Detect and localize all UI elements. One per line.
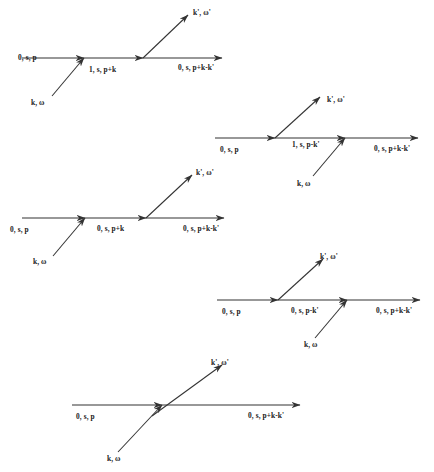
diagram-4-lines xyxy=(217,259,420,338)
diagram-3-outgoing-right-label: 0, s, p+k-k' xyxy=(183,225,219,232)
diagram-4-outgoing-photon-label: k', ω' xyxy=(320,253,338,260)
diagram-4-outgoing-right-label: 0, s, p+k-k' xyxy=(376,307,412,314)
diagram-3-incoming-photon-label: k, ω xyxy=(33,258,47,265)
diagram-1-lines xyxy=(22,15,222,96)
diagram-1-incoming-photon-label: k, ω xyxy=(31,99,45,106)
diagram-1-outgoing-photon-label: k', ω' xyxy=(193,9,211,16)
diagram-2-outgoing-right-label: 0, s, p+k-k' xyxy=(374,145,410,152)
diagram-5-outgoing-photon-label: k', ω' xyxy=(211,359,229,366)
diagram-1-incoming-left-label: 0, s, p xyxy=(18,54,37,61)
diagram-1-middle-label: 1, s, p+k xyxy=(89,66,116,73)
diagram-5-lines xyxy=(72,365,300,452)
diagram-3-outgoing-photon-label: k', ω' xyxy=(196,169,214,176)
diagram-2-middle-label: 1, s, p-k' xyxy=(292,141,320,148)
diagram-5-incoming-left-label: 0, s, p xyxy=(76,413,95,420)
diagram-5-outgoing-right-label: 0, s, p+k-k' xyxy=(248,412,284,419)
diagram-lines-layer xyxy=(0,0,434,472)
diagram-4-middle-label: 0, s, p-k' xyxy=(291,307,319,314)
diagram-1-outgoing-right-label: 0, s, p+k-k' xyxy=(178,64,214,71)
diagram-4-incoming-photon-label: k, ω xyxy=(304,341,318,348)
diagram-5-incoming-photon-label: k, ω xyxy=(107,455,121,462)
diagram-2-incoming-left-label: 0, s, p xyxy=(220,146,239,153)
diagram-4-incoming-left-label: 0, s, p xyxy=(222,308,241,315)
diagram-2-outgoing-photon-label: k', ω' xyxy=(327,96,345,103)
feynman-diagram-figure: 0, s, p 1, s, p+k 0, s, p+k-k' k', ω' k,… xyxy=(0,0,434,472)
diagram-2-incoming-photon-label: k, ω xyxy=(297,180,311,187)
diagram-3-incoming-left-label: 0, s, p xyxy=(10,226,29,233)
diagram-2-lines xyxy=(215,97,418,176)
diagram-3-lines xyxy=(22,175,224,256)
diagram-3-middle-label: 0, s, p+k xyxy=(97,225,124,232)
